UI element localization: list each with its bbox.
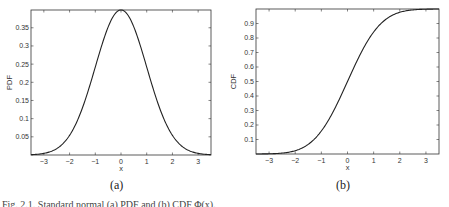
x-tick-label: −3 [40, 158, 48, 165]
curve-line [256, 9, 439, 154]
y-tick-label: 0.2 [244, 121, 254, 128]
x-tick-label: −2 [66, 158, 74, 165]
x-tick-label: −2 [291, 157, 299, 164]
panel-label-a: (a) [110, 178, 123, 193]
x-tick-label: 3 [196, 158, 200, 165]
x-tick-label: −3 [265, 157, 273, 164]
y-tick-label: 0.5 [244, 78, 254, 85]
y-tick-label: 0.2 [19, 79, 29, 86]
x-tick-label: −1 [317, 157, 325, 164]
curve-line [31, 10, 211, 155]
y-tick-label: 0.1 [19, 115, 29, 122]
panel-label-b: (b) [336, 178, 350, 193]
y-tick-label: 0.15 [15, 97, 29, 104]
cdf-chart-svg: −3−2−101230.10.20.30.40.50.60.70.80.9xCD… [224, 0, 449, 175]
y-tick-label: 0.1 [244, 136, 254, 143]
x-axis-label: x [346, 163, 350, 172]
figure-caption: Fig. 2.1. Standard normal (a) PDF and (b… [2, 199, 216, 207]
x-tick-label: 1 [372, 157, 376, 164]
y-axis-label: CDF [229, 73, 238, 89]
y-tick-label: 0.6 [244, 63, 254, 70]
y-tick-label: 0.8 [244, 34, 254, 41]
cdf-plot: −3−2−101230.10.20.30.40.50.60.70.80.9xCD… [224, 0, 449, 175]
y-tick-label: 0.4 [244, 92, 254, 99]
y-tick-label: 0.25 [15, 61, 29, 68]
x-axis-label: x [119, 164, 123, 173]
x-tick-label: 1 [145, 158, 149, 165]
x-tick-label: 2 [398, 157, 402, 164]
y-axis-label: PDF [5, 75, 14, 90]
pdf-plot: −3−2−101230.050.10.150.20.250.30.35xPDF [0, 0, 225, 175]
pdf-chart-svg: −3−2−101230.050.10.150.20.250.30.35xPDF [0, 0, 225, 175]
x-tick-label: 3 [424, 157, 428, 164]
x-tick-label: 2 [170, 158, 174, 165]
axes-frame [31, 10, 211, 155]
y-tick-label: 0.9 [244, 20, 254, 27]
y-tick-label: 0.7 [244, 49, 254, 56]
y-tick-label: 0.35 [15, 24, 29, 31]
y-tick-label: 0.3 [19, 42, 29, 49]
y-tick-label: 0.05 [15, 133, 29, 140]
y-tick-label: 0.3 [244, 107, 254, 114]
x-tick-label: −1 [91, 158, 99, 165]
